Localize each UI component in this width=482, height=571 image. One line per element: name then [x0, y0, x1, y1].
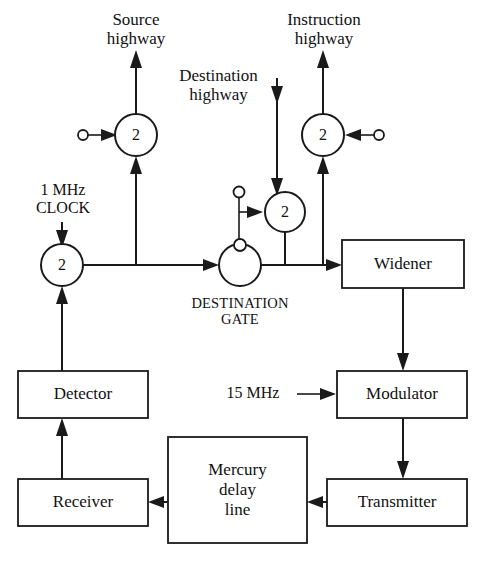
- arrowhead-upper-gate-in: [247, 206, 263, 218]
- arrowhead-transmitter-in: [397, 461, 409, 479]
- arrowhead-source-highway: [130, 50, 142, 68]
- arrowhead-detector-in: [56, 418, 68, 436]
- source-input-terminal-icon: [78, 130, 88, 140]
- arrowhead-modulator-in-top: [397, 353, 409, 371]
- arrowhead-clock-gate-bottom: [56, 286, 68, 304]
- modulator-box[interactable]: [337, 371, 467, 418]
- gate-destination-upper-circle[interactable]: [265, 192, 305, 232]
- arrowhead-instruction-highway: [317, 50, 329, 68]
- arrowhead-destination-highway-upper: [271, 86, 283, 104]
- label-clock: 1 MHz CLOCK: [20, 181, 106, 217]
- destination-gate-control-terminal-icon: [234, 187, 245, 198]
- gate-instruction-circle[interactable]: [302, 114, 344, 156]
- receiver-box[interactable]: [18, 479, 148, 526]
- arrowhead-delay-in: [307, 496, 323, 508]
- arrowhead-receiver-in: [148, 496, 164, 508]
- arrowhead-source-gate-bottom: [130, 156, 142, 174]
- label-source-highway: Source highway: [78, 10, 194, 48]
- mercury-delay-line-box[interactable]: [168, 437, 307, 543]
- destination-gate-top-terminal-icon: [234, 239, 246, 251]
- label-instruction-highway: Instruction highway: [258, 10, 390, 48]
- arrowhead-widener-in: [326, 259, 342, 271]
- arrowhead-instruction-gate-in: [345, 129, 361, 141]
- transmitter-box[interactable]: [327, 479, 467, 526]
- detector-box[interactable]: [18, 371, 148, 418]
- gate-clock-circle[interactable]: [41, 244, 83, 286]
- arrowhead-instruction-gate-bottom: [317, 156, 329, 174]
- arrowhead-modulator-in-left: [320, 388, 336, 400]
- gate-source-circle[interactable]: [115, 114, 157, 156]
- label-15mhz: 15 MHz: [215, 384, 291, 402]
- label-destination-highway: Destination highway: [166, 66, 271, 104]
- block-diagram: Source highway Instruction highway Desti…: [0, 0, 482, 571]
- label-destination-gate: DESTINATION GATE: [160, 295, 320, 327]
- widener-box[interactable]: [342, 240, 464, 288]
- instruction-input-terminal-icon: [374, 130, 384, 140]
- arrowhead-destination-gate-in: [203, 259, 219, 271]
